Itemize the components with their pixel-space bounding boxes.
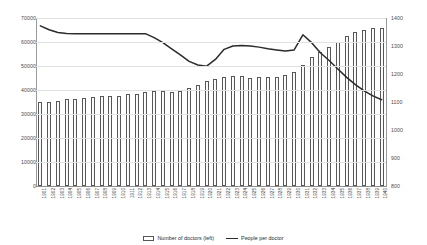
- right-axis-tick: 1300: [391, 43, 403, 49]
- left-axis-tick: 50000: [21, 63, 36, 69]
- x-axis-tick: 1915: [165, 188, 170, 198]
- x-axis-tick: 1938: [366, 188, 371, 198]
- x-axis-tick: 1921: [217, 188, 222, 198]
- left-axis-tick: 70000: [21, 15, 36, 21]
- legend-label-doctors: Number of doctors (left): [157, 235, 214, 241]
- x-axis-tick: 1903: [60, 188, 65, 198]
- x-axis-tick: 1935: [340, 188, 345, 198]
- right-axis-tick: 1400: [391, 15, 403, 21]
- x-axis-tick: 1924: [243, 188, 248, 198]
- x-axis-tick: 1940: [383, 188, 388, 198]
- gridline: [36, 42, 386, 43]
- x-axis-tick: 1917: [182, 188, 187, 198]
- gridline: [36, 138, 386, 139]
- right-axis-tick: 1100: [391, 99, 403, 105]
- x-axis-tick: 1904: [68, 188, 73, 198]
- line-series: [36, 18, 386, 186]
- right-axis-tick: 1200: [391, 71, 403, 77]
- left-axis-tick: 20000: [21, 135, 36, 141]
- x-axis-tick: 1929: [287, 188, 292, 198]
- x-axis-tick: 1931: [305, 188, 310, 198]
- x-axis-tick: 1914: [156, 188, 161, 198]
- x-axis-tick: 1922: [226, 188, 231, 198]
- gridline: [36, 90, 386, 91]
- x-axis-tick: 1908: [103, 188, 108, 198]
- gridline: [36, 114, 386, 115]
- left-axis-tick: 40000: [21, 87, 36, 93]
- plot-area: [36, 18, 386, 186]
- x-axis-tick: 1933: [322, 188, 327, 198]
- legend-item-people-per-doctor: People per doctor: [226, 235, 284, 241]
- x-axis-tick: 1918: [191, 188, 196, 198]
- legend-label-people-per-doctor: People per doctor: [241, 235, 284, 241]
- x-axis-tick-labels: 1901190219031904190519061907190819091910…: [36, 188, 386, 224]
- x-axis-tick: 1925: [252, 188, 257, 198]
- x-axis-tick: 1910: [121, 188, 126, 198]
- left-axis-tick: 10000: [21, 159, 36, 165]
- x-axis-tick: 1909: [112, 188, 117, 198]
- x-axis-tick: 1919: [200, 188, 205, 198]
- x-axis-tick: 1906: [86, 188, 91, 198]
- chart-container: 010000200003000040000500006000070000 800…: [0, 0, 427, 245]
- x-axis-tick: 1930: [296, 188, 301, 198]
- gridline: [36, 162, 386, 163]
- gridline: [36, 18, 386, 19]
- line-swatch-icon: [226, 238, 238, 239]
- x-axis-tick: 1937: [357, 188, 362, 198]
- x-axis-tick: 1934: [331, 188, 336, 198]
- x-axis-tick: 1901: [42, 188, 47, 198]
- x-axis-tick: 1928: [278, 188, 283, 198]
- x-axis-tick: 1926: [261, 188, 266, 198]
- right-axis-tick: 900: [391, 155, 400, 161]
- chart-legend: Number of doctors (left) People per doct…: [0, 235, 427, 241]
- x-axis-tick: 1916: [173, 188, 178, 198]
- legend-item-doctors: Number of doctors (left): [143, 235, 214, 241]
- x-axis-tick: 1936: [348, 188, 353, 198]
- right-axis-tick: 800: [391, 183, 400, 189]
- x-axis-tick: 1927: [270, 188, 275, 198]
- x-axis-tick: 1905: [77, 188, 82, 198]
- x-axis-tick: 1939: [375, 188, 380, 198]
- right-axis-tick: 1000: [391, 127, 403, 133]
- x-axis-tick: 1907: [95, 188, 100, 198]
- x-axis-tick: 1911: [130, 188, 135, 198]
- x-axis-tick: 1923: [235, 188, 240, 198]
- right-axis-line: [386, 18, 387, 186]
- x-axis-tick: 1913: [147, 188, 152, 198]
- gridline: [36, 66, 386, 67]
- x-axis-line: [36, 186, 387, 187]
- x-axis-tick: 1920: [208, 188, 213, 198]
- left-axis-tick: 30000: [21, 111, 36, 117]
- bar-swatch-icon: [143, 236, 154, 241]
- x-axis-tick: 1902: [51, 188, 56, 198]
- x-axis-tick: 1932: [313, 188, 318, 198]
- left-axis-tick: 60000: [21, 39, 36, 45]
- x-axis-tick: 1912: [138, 188, 143, 198]
